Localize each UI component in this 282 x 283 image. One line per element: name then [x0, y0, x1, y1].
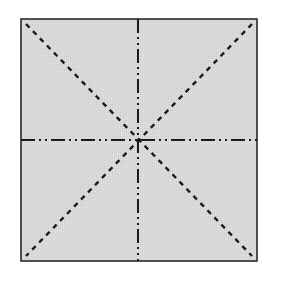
fold-diagram [0, 0, 282, 283]
